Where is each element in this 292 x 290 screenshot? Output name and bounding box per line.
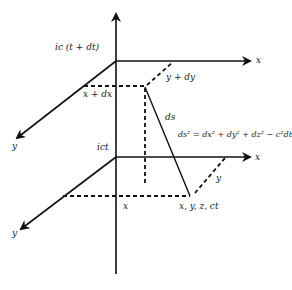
ds-interval-line (145, 87, 190, 196)
spacetime-diagram: ic (t + dt) x y + dy x + dx y ds ds² = d… (0, 0, 292, 290)
label-top-time: ic (t + dt) (55, 43, 99, 52)
label-lower-x: x (255, 153, 260, 162)
label-equation: ds² = dx² + dy² + dz² − c²dt² (178, 131, 292, 139)
label-event: x, y, z, ct (179, 202, 219, 211)
label-upper-y: y (12, 142, 17, 151)
label-x-coord: x (123, 202, 128, 211)
label-lower-y: y (12, 229, 17, 238)
label-y-plus-dy: y + dy (166, 73, 195, 82)
label-x-plus-dx: x + dx (83, 90, 112, 99)
diagram-canvas (0, 0, 292, 290)
label-ds: ds (165, 113, 175, 122)
label-y-coord: y (216, 174, 221, 183)
upper-y-axis (17, 61, 116, 138)
lower-y-axis (21, 157, 116, 229)
label-upper-x: x (256, 56, 261, 65)
label-bottom-time: ict (97, 143, 109, 152)
